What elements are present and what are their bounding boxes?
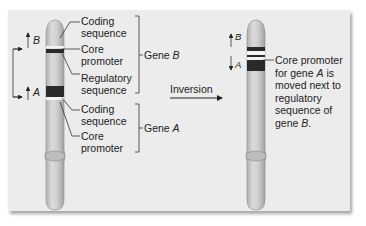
gene-label-text: Gene bbox=[144, 49, 173, 61]
gene-letter: B bbox=[173, 49, 180, 61]
arrow-label-b: B bbox=[33, 34, 40, 46]
note-text: regulatory bbox=[275, 92, 322, 104]
gene-label-text: Gene bbox=[144, 122, 173, 134]
right-chromosome bbox=[246, 20, 266, 210]
note-text: is bbox=[323, 67, 334, 79]
band-coding-a bbox=[46, 86, 64, 97]
label-gene-a: Gene A bbox=[144, 122, 180, 134]
note-text: . bbox=[308, 117, 311, 129]
note-text: sequence of bbox=[275, 104, 332, 116]
label-core-promoter-b: Core promoter bbox=[81, 43, 123, 67]
left-chromosome bbox=[45, 20, 65, 210]
band-light bbox=[46, 97, 64, 100]
note-text: for gene bbox=[275, 67, 316, 79]
gene-letter: A bbox=[33, 86, 40, 98]
label-coding-sequence-a: Coding sequence bbox=[81, 103, 127, 127]
label-core-promoter-a: Core promoter bbox=[81, 130, 123, 154]
right-arrow-label-a: A bbox=[235, 59, 241, 71]
gene-letter: B bbox=[235, 31, 241, 42]
note-text: Core promoter bbox=[275, 54, 343, 66]
label-regulatory-sequence-b: Regulatory sequence bbox=[81, 72, 132, 96]
inversion-note: Core promoter for gene A is moved next t… bbox=[275, 54, 343, 129]
gene-letter: B bbox=[33, 34, 40, 46]
band-core-promoter-b bbox=[46, 49, 64, 53]
note-text: gene bbox=[275, 117, 301, 129]
right-arrow-label-b: B bbox=[235, 31, 241, 43]
gene-letter: A bbox=[235, 59, 241, 70]
gene-letter: A bbox=[173, 122, 180, 134]
band-light bbox=[46, 46, 64, 49]
arrow-label-a: A bbox=[33, 86, 40, 98]
label-gene-b: Gene B bbox=[144, 49, 180, 61]
note-text: moved next to bbox=[275, 79, 341, 91]
inversion-label: Inversion bbox=[170, 83, 213, 95]
label-coding-sequence-b: Coding sequence bbox=[81, 15, 127, 39]
